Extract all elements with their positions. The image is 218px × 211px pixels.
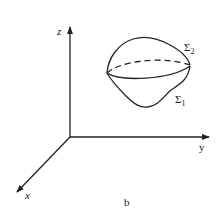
sigma2-label: Σ2: [184, 41, 194, 56]
y-axis-label: y: [199, 141, 205, 153]
sigma1-subscript: 1: [181, 99, 185, 108]
rim-back-dashed: [107, 60, 190, 73]
rim-front: [107, 66, 190, 78]
z-axis-label: z: [56, 25, 62, 37]
sigma1-label: Σ1: [175, 93, 185, 108]
x-axis-label: x: [24, 189, 30, 201]
diagram-canvas: z y x Σ2 Σ1 b: [0, 0, 218, 211]
x-axis: [17, 137, 70, 192]
figure-caption: b: [124, 196, 130, 208]
sigma2-subscript: 2: [190, 47, 194, 56]
surface-sigma2-outline: [107, 37, 190, 73]
